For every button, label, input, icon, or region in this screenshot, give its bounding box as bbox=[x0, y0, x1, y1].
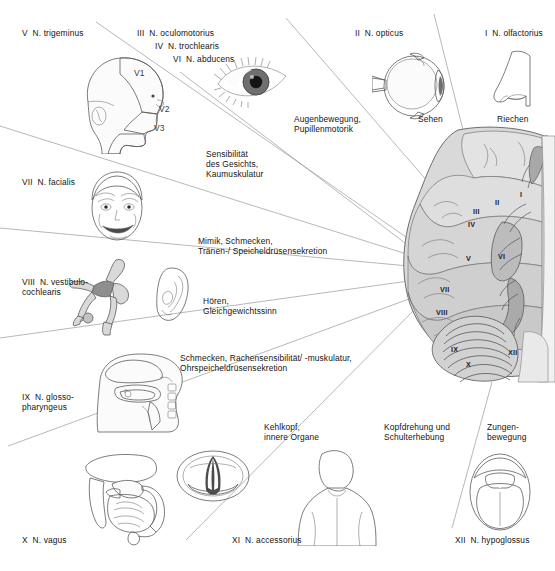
facial-expression-illustration bbox=[84, 166, 150, 244]
nose-illustration bbox=[488, 50, 534, 110]
label-function-sehen: Sehen bbox=[418, 114, 443, 124]
label-nerve-vestibulocochlearis-line2: cochlearis bbox=[22, 287, 61, 297]
label-nerve-accessorius: XI N. accessorius bbox=[232, 535, 302, 545]
brain-roman-VI: VI bbox=[498, 252, 505, 261]
label-nerve-olfactorius: I N. olfactorius bbox=[485, 28, 543, 38]
label-function-riechen: Riechen bbox=[497, 114, 529, 124]
ear-illustration bbox=[152, 266, 192, 322]
trigeminal-head-illustration: V1 V2 V3 bbox=[58, 44, 186, 154]
label-function-augenbewegung-line2: Pupillenmotorik bbox=[294, 124, 353, 134]
brain-sagittal-illustration bbox=[398, 126, 555, 386]
label-nerve-oculomotorius: III N. oculomotorius bbox=[137, 28, 214, 38]
trigeminal-v1-label: V1 bbox=[134, 68, 145, 78]
trigeminal-v3-label: V3 bbox=[154, 123, 165, 133]
label-function-zungen-line1: Zungen- bbox=[487, 422, 519, 432]
label-nerve-opticus: II N. opticus bbox=[355, 28, 403, 38]
brain-roman-X: X bbox=[466, 360, 471, 369]
label-nerve-trochlearis: IV N. trochlearis bbox=[155, 41, 219, 51]
trigeminal-v2-label: V2 bbox=[159, 104, 170, 114]
label-function-sensibilitaet-line2: des Gesichts, bbox=[206, 159, 258, 169]
brain-roman-VII: VII bbox=[440, 285, 449, 294]
tongue-illustration bbox=[466, 452, 534, 534]
label-function-mimik-line2: Tränen-/ Speicheldrüsensekretion bbox=[198, 246, 327, 256]
brain-roman-IV: IV bbox=[468, 220, 475, 229]
brain-roman-V: V bbox=[466, 254, 471, 263]
label-nerve-hypoglossus: XII N. hypoglossus bbox=[455, 535, 529, 545]
label-nerve-facialis: VII N. facialis bbox=[22, 177, 75, 187]
label-function-schmecken-line2: Ohrspeicheldrüsensekretion bbox=[180, 363, 287, 373]
brain-roman-I: I bbox=[520, 190, 522, 199]
internal-organs-illustration bbox=[76, 448, 182, 546]
label-nerve-vestibulocochlearis-line1: VIII N. vestibulo- bbox=[22, 277, 88, 287]
head-shoulders-back-illustration bbox=[296, 450, 378, 546]
label-function-kopfdrehung-line2: Schulterhebung bbox=[384, 432, 444, 442]
label-function-kopfdrehung-line1: Kopfdrehung und bbox=[384, 422, 450, 432]
label-nerve-glossopharyngeus-line1: IX N. glosso- bbox=[22, 392, 74, 402]
label-function-mimik-line1: Mimik, Schmecken, bbox=[198, 236, 273, 246]
brain-roman-VIII: VIII bbox=[436, 308, 448, 317]
brain-roman-III: III bbox=[473, 207, 480, 216]
label-function-hoeren-line2: Gleichgewichtssinn bbox=[203, 306, 277, 316]
cranial-nerves-figure: V1 V2 V3 bbox=[0, 0, 555, 571]
label-function-sensibilitaet-line3: Kaumuskulatur bbox=[206, 169, 263, 179]
label-function-sensibilitaet-line1: Sensibilität bbox=[206, 149, 248, 159]
eyeball-sagittal-illustration bbox=[372, 46, 456, 122]
label-function-zungen-line2: bewegung bbox=[487, 432, 527, 442]
balance-handstand-illustration bbox=[68, 256, 144, 336]
label-function-schmecken-line1: Schmecken, Rachensensibilität/ -muskulat… bbox=[180, 353, 352, 363]
brain-roman-XII: XII bbox=[508, 348, 517, 357]
label-nerve-vagus: X N. vagus bbox=[22, 535, 67, 545]
larynx-vocal-folds-illustration bbox=[174, 448, 252, 504]
label-function-kehlkopf-line1: Kehlkopf, bbox=[264, 422, 300, 432]
label-function-hoeren-line1: Hören, bbox=[203, 296, 229, 306]
label-nerve-abducens: VI N. abducens bbox=[173, 54, 234, 64]
brain-roman-II: II bbox=[495, 198, 499, 207]
label-nerve-glossopharyngeus-line2: pharyngeus bbox=[22, 402, 67, 412]
brain-roman-IX: IX bbox=[451, 345, 458, 354]
label-function-kehlkopf-line2: innere Organe bbox=[264, 432, 319, 442]
label-nerve-trigeminus: V N. trigeminus bbox=[22, 28, 84, 38]
label-function-augenbewegung-line1: Augenbewegung, bbox=[294, 114, 361, 124]
